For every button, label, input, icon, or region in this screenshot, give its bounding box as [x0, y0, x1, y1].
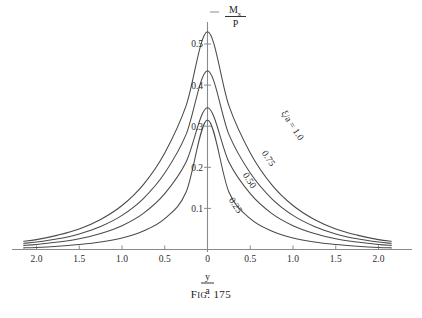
y-tick-label: 0.1: [191, 204, 203, 214]
x-tick-label: 1.0: [287, 254, 299, 264]
y-tick-label: 0.5: [191, 39, 203, 49]
x-tick-label: 1.5: [330, 254, 342, 264]
y-tick-label: 0.2: [191, 163, 203, 173]
x-tick-label: 2.0: [373, 254, 385, 264]
y-tick-label: 0.4: [191, 81, 203, 91]
caption-dot: .: [207, 288, 210, 300]
x-tick-labels: 2.01.51.00.500.51.01.52.0: [31, 254, 385, 264]
curve-label: 0.25: [227, 196, 245, 216]
x-tick-label: 0: [205, 254, 210, 264]
y-tick-labels: 0.10.20.30.40.5: [191, 39, 203, 213]
x-tick-label: 2.0: [31, 254, 43, 264]
y-tick-label: 0.3: [191, 122, 203, 132]
caption-smallcaps: IG: [197, 290, 207, 300]
y-axis-numerator: Mx: [229, 4, 242, 17]
x-axis-numerator: y: [205, 271, 210, 282]
x-tick-marks: [37, 246, 379, 250]
x-tick-label: 1.0: [116, 254, 128, 264]
figure-container: 2.01.51.00.500.51.01.52.0 0.10.20.30.40.…: [0, 0, 422, 318]
x-tick-label: 1.5: [73, 254, 85, 264]
curve-label: ξ/a = 1.0: [278, 109, 305, 143]
plot-area: 2.01.51.00.500.51.01.52.0 0.10.20.30.40.…: [0, 0, 422, 318]
curve-label: 0.75: [260, 149, 278, 169]
x-tick-label: 0.5: [159, 254, 171, 264]
curve-labels: ξ/a = 1.00.750.500.25: [227, 109, 306, 215]
curve-label: 0.50: [241, 171, 259, 191]
y-axis-denominator: P: [233, 18, 239, 29]
figure-caption: FIG. 175: [0, 288, 422, 300]
y-axis-title: Mx P: [210, 4, 246, 29]
caption-number: 175: [213, 288, 231, 300]
x-tick-label: 0.5: [244, 254, 256, 264]
